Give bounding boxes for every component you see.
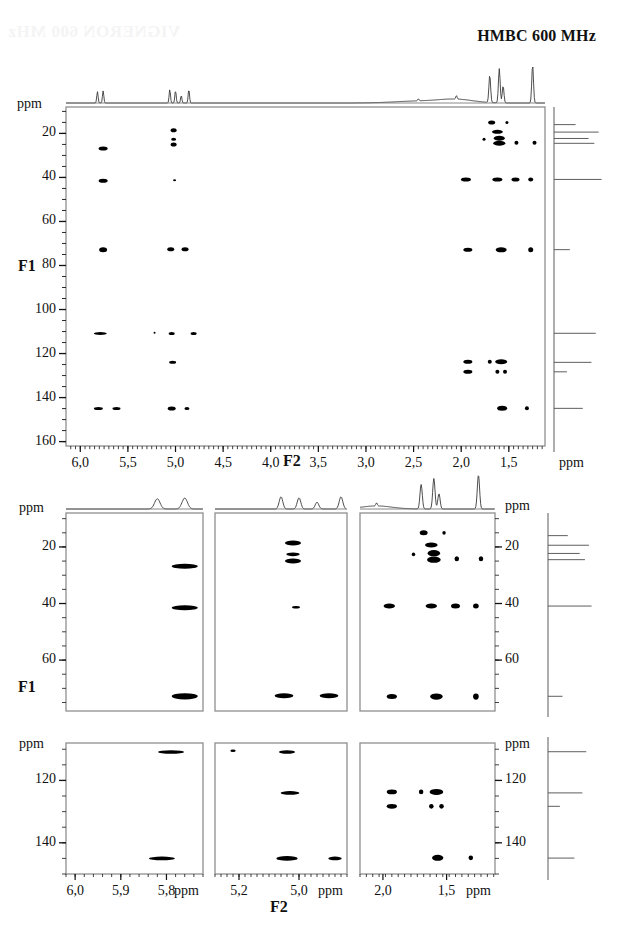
main-x-tick-label-8: 2,0 <box>452 455 470 471</box>
cross-peak <box>429 804 434 809</box>
cross-peak <box>533 141 537 145</box>
main-x-axis-title: F2 <box>283 452 301 470</box>
main-plot-frame <box>66 107 545 446</box>
expansion-panel-frame <box>360 743 495 874</box>
cross-peak <box>230 750 235 752</box>
cross-peak <box>419 790 424 795</box>
main-y-tick-label-3: 80 <box>42 256 56 272</box>
cross-peak <box>461 177 471 181</box>
cross-peak <box>492 177 502 181</box>
figure-root: VIGNERON 600 MHz HMBC 600 MHz 6,05,55,04… <box>0 0 638 945</box>
expansion-proton-projection-trace <box>66 498 203 509</box>
cross-peak <box>387 804 397 809</box>
main-x-tick-label-2: 5,0 <box>167 455 185 471</box>
main-x-tick-label-7: 2,5 <box>405 455 423 471</box>
exp-y-tick-label: 60 <box>42 651 56 667</box>
cross-peak <box>171 128 177 132</box>
exp-row1-right-unit-label: ppm <box>505 498 530 514</box>
cross-peak <box>439 804 444 809</box>
expansion-row1-y-axis-title: F1 <box>18 678 36 696</box>
exp-x-tick-label: 5,2 <box>230 883 248 899</box>
main-x-tick-label-9: 1,5 <box>500 455 518 471</box>
cross-peak <box>387 694 397 699</box>
cross-peak <box>292 606 300 609</box>
cross-peak <box>191 332 197 335</box>
main-y-unit-label: ppm <box>17 96 42 112</box>
cross-peak <box>99 146 108 150</box>
cross-peak <box>451 604 460 609</box>
cross-peak <box>182 247 189 251</box>
main-x-tick-label-6: 3,0 <box>357 455 375 471</box>
cross-peak <box>479 556 484 561</box>
exp-x-tick-label: 5,9 <box>112 883 130 899</box>
cross-peak <box>442 531 445 535</box>
cross-peak <box>528 247 533 252</box>
cross-peak <box>172 605 198 610</box>
main-x-tick-label-4: 4,0 <box>262 455 280 471</box>
cross-peak <box>173 179 176 181</box>
cross-peak <box>99 179 108 183</box>
cross-peak <box>427 557 441 563</box>
cross-peak <box>387 790 397 795</box>
cross-peak <box>492 130 503 134</box>
cross-peak <box>494 136 505 141</box>
main-y-tick-label-1: 40 <box>42 168 56 184</box>
cross-peak <box>425 542 438 547</box>
cross-peak <box>172 693 198 699</box>
main-y-tick-label-5: 120 <box>35 345 56 361</box>
cross-peak <box>412 552 415 556</box>
cross-peak <box>281 791 300 795</box>
main-x-unit-label: ppm <box>559 455 584 471</box>
cross-peak <box>528 177 533 181</box>
cross-peak <box>505 121 508 124</box>
exp-x-tick-label: 6,0 <box>66 883 84 899</box>
cross-peak <box>463 360 472 364</box>
expansion-panel-frame <box>360 513 495 711</box>
cross-peak <box>469 855 474 860</box>
cross-peak <box>275 693 294 698</box>
spectrum-canvas <box>0 0 638 945</box>
expansion-proton-projection-trace <box>215 497 346 509</box>
exp-y-tick-label: 140 <box>35 834 56 850</box>
cross-peak <box>149 857 175 861</box>
main-y-tick-label-7: 160 <box>35 433 56 449</box>
expansion-row2-x-axis-title: F2 <box>270 898 288 916</box>
exp-y-tick-label: 20 <box>42 538 56 554</box>
cross-peak <box>514 141 518 145</box>
expansion-panel-frame <box>215 743 347 874</box>
main-y-axis-title: F1 <box>18 257 36 275</box>
exp-y-tick-label: 20 <box>505 538 519 554</box>
exp-x-unit-label: ppm <box>174 883 199 899</box>
cross-peak <box>511 177 519 181</box>
cross-peak <box>158 750 184 754</box>
exp-x-tick-label: 1,5 <box>438 883 456 899</box>
cross-peak <box>493 141 505 146</box>
expansion-panel-frame <box>66 743 203 874</box>
main-proton-projection-trace <box>66 67 545 103</box>
cross-peak <box>285 540 301 545</box>
exp-x-tick-label: 2,0 <box>374 883 392 899</box>
exp-x-tick-label: 5,8 <box>158 883 176 899</box>
exp-x-tick-label: 5,0 <box>290 883 308 899</box>
main-y-tick-label-4: 100 <box>35 301 56 317</box>
cross-peak <box>488 360 492 364</box>
main-x-tick-label-0: 6,0 <box>72 455 90 471</box>
cross-peak <box>285 559 301 564</box>
cross-peak <box>497 406 507 411</box>
exp-y-tick-label: 40 <box>42 595 56 611</box>
cross-peak <box>320 693 339 698</box>
cross-peak <box>463 248 472 252</box>
exp-x-unit-label: ppm <box>466 883 491 899</box>
cross-peak <box>496 247 507 252</box>
exp-x-unit-label: ppm <box>318 883 343 899</box>
cross-peak <box>328 857 341 861</box>
cross-peak <box>286 552 299 556</box>
cross-peak <box>384 604 395 609</box>
main-x-tick-label-3: 4,5 <box>214 455 232 471</box>
cross-peak <box>169 332 175 335</box>
exp-row2-left-unit-label: ppm <box>19 736 44 752</box>
cross-peak <box>495 370 499 374</box>
cross-peak <box>154 332 156 334</box>
cross-peak <box>184 407 189 410</box>
main-y-tick-label-6: 140 <box>35 389 56 405</box>
